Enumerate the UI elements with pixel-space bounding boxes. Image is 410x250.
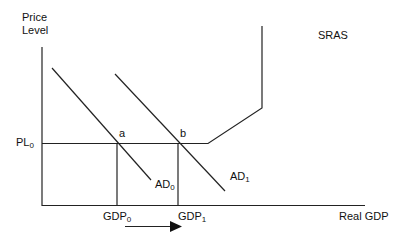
- ad1-label: AD1: [230, 170, 250, 186]
- sras-curve: [42, 26, 262, 144]
- point-b-label: b: [180, 127, 186, 140]
- gdp1-label: GDP1: [178, 210, 206, 226]
- ad0-label: AD0: [155, 178, 175, 194]
- sras-label: SRAS: [318, 29, 348, 42]
- y-axis-label: Price Level: [22, 11, 48, 37]
- ad1-curve: [115, 74, 225, 191]
- gdp0-label: GDP0: [103, 210, 131, 226]
- point-a-label: a: [119, 127, 125, 140]
- x-axis-label: Real GDP: [339, 210, 389, 223]
- ad0-curve: [52, 68, 151, 180]
- price-level-label: PL0: [16, 136, 34, 152]
